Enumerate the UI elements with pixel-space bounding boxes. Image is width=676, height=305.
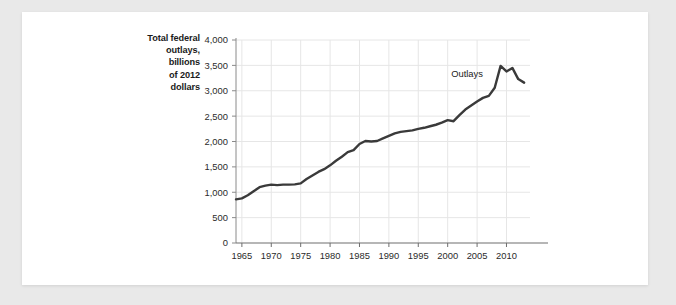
x-axis-tick-label: 2005: [467, 250, 488, 261]
y-axis-tick-label: 0: [223, 237, 228, 248]
y-axis-tick-label: 2,500: [205, 111, 228, 122]
x-axis-tick-label: 1965: [231, 250, 252, 261]
series-layer: [236, 66, 524, 199]
y-axis-tick-label: 1,000: [205, 187, 228, 198]
x-axis-tick-label: 1980: [320, 250, 341, 261]
x-axis-tick-label: 2010: [496, 250, 517, 261]
series-annotation-layer: Outlays: [451, 68, 483, 79]
x-axis-tick-labels: 1965197019751980198519901995200020052010: [231, 250, 516, 261]
chart-card: Total federal outlays, billions of 2012 …: [22, 12, 648, 285]
y-axis-tick-label: 4,000: [205, 34, 228, 45]
x-axis-tick-label: 1975: [290, 250, 311, 261]
grid-layer: [236, 40, 530, 243]
y-axis-tick-label: 3,000: [205, 85, 228, 96]
y-axis-tick-label: 500: [212, 212, 228, 223]
y-axis-tick-labels: 05001,0001,5002,0002,5003,0003,5004,000: [205, 34, 228, 248]
x-axis-tick-label: 1990: [378, 250, 399, 261]
y-axis-tick-label: 2,000: [205, 136, 228, 147]
series-annotation-outlays: Outlays: [451, 68, 483, 79]
x-axis-tick-label: 2000: [437, 250, 458, 261]
y-axis-tick-label: 1,500: [205, 161, 228, 172]
series-line-outlays: [236, 66, 524, 199]
y-axis-tick-label: 3,500: [205, 60, 228, 71]
page-root: Total federal outlays, billions of 2012 …: [0, 0, 676, 305]
x-axis-tick-label: 1970: [261, 250, 282, 261]
x-axis-tick-label: 1995: [408, 250, 429, 261]
line-chart: 05001,0001,5002,0002,5003,0003,5004,000 …: [22, 12, 648, 285]
x-axis-tick-label: 1985: [349, 250, 370, 261]
figure: Total federal outlays, billions of 2012 …: [22, 12, 648, 285]
